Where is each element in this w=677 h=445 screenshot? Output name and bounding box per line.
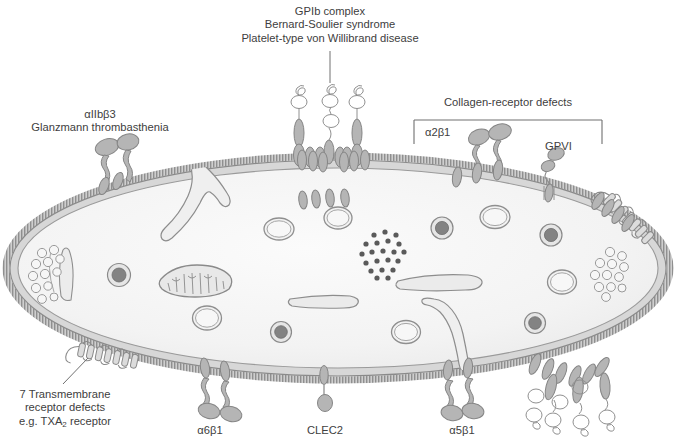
gpvi-label: GPVI bbox=[545, 140, 572, 153]
alpha-granule bbox=[264, 218, 294, 240]
seven-tm-label-block: 7 Transmembrane receptor defects e.g. TX… bbox=[2, 388, 128, 429]
alpha-granule bbox=[193, 306, 222, 330]
gpib-label-block: GPIb complex Bernard-Soulier syndrome Pl… bbox=[230, 5, 430, 45]
seven-tm-label-line3-sub: 2 bbox=[62, 420, 66, 429]
alpha2beta1-label: α2β1 bbox=[425, 126, 450, 139]
seven-tm-label-line3-pre: e.g. TXA bbox=[19, 415, 62, 427]
alpha-granule bbox=[548, 270, 577, 294]
gpib-complex bbox=[599, 373, 615, 431]
alpha6beta1-integrin bbox=[219, 381, 244, 424]
alpha5beta1-integrin bbox=[440, 380, 464, 422]
dense-granule bbox=[431, 217, 453, 239]
alpha5beta1-integrin bbox=[461, 378, 485, 420]
alpha6beta1-integrin bbox=[197, 378, 222, 421]
platelet-receptor-diagram: GPIb complex Bernard-Soulier syndrome Pl… bbox=[0, 0, 677, 445]
alpha-iib-beta3-label-line2: Glanzmann thrombasthenia bbox=[20, 121, 180, 134]
seven-tm-label-line2: receptor defects bbox=[2, 401, 128, 414]
gpib-label-line2: Bernard-Soulier syndrome bbox=[230, 18, 430, 31]
collagen-bracket-title: Collagen-receptor defects bbox=[408, 96, 608, 109]
diagram-canvas bbox=[0, 0, 677, 445]
dense-granule bbox=[540, 224, 562, 246]
seven-tm-label-line1: 7 Transmembrane bbox=[2, 388, 128, 401]
dense-granule bbox=[108, 264, 131, 287]
gpib-label-line3: Platelet-type von Willibrand disease bbox=[230, 32, 430, 45]
gpib-complex-group-bottom-right bbox=[526, 352, 615, 436]
alpha5beta1-label: α5β1 bbox=[432, 424, 492, 437]
dense-granule bbox=[271, 322, 292, 343]
alpha-granule bbox=[392, 321, 421, 344]
gpib-label-line1: GPIb complex bbox=[230, 5, 430, 18]
seven-tm-label-line3: e.g. TXA2 receptor bbox=[2, 415, 128, 429]
alpha-iib-beta3-label-block: αIIbβ3 Glanzmann thrombasthenia bbox=[20, 108, 180, 135]
dense-granule bbox=[525, 313, 546, 334]
seven-tm-label-line3-post: receptor bbox=[67, 415, 111, 427]
alpha-granule bbox=[480, 206, 510, 229]
gpib-complex bbox=[571, 376, 589, 436]
alpha-granule bbox=[324, 207, 352, 229]
clec2-label: CLEC2 bbox=[295, 424, 355, 437]
alpha-iib-beta3-label-line1: αIIbβ3 bbox=[20, 108, 180, 121]
dense-tubular-system-left bbox=[288, 295, 358, 308]
seven-tm-leader-line bbox=[63, 358, 88, 384]
alpha6beta1-label: α6β1 bbox=[180, 424, 240, 437]
